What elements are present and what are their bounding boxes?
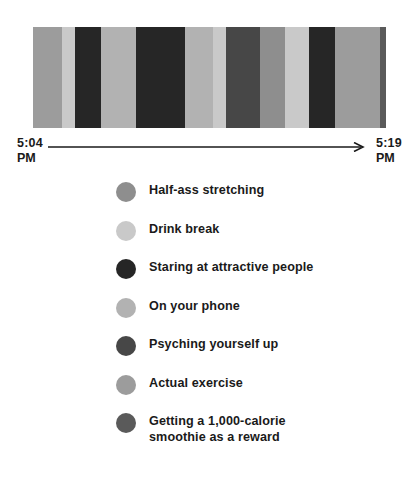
timeline-bar-chart xyxy=(33,27,386,128)
legend-color-swatch-icon xyxy=(116,298,136,318)
timeline-segment xyxy=(62,27,74,128)
chart-legend: Half-ass stretchingDrink breakStaring at… xyxy=(116,181,406,462)
legend-item[interactable]: Actual exercise xyxy=(116,374,406,396)
legend-item[interactable]: On your phone xyxy=(116,297,406,319)
legend-item-label: Drink break xyxy=(149,220,219,238)
legend-item-label: Half-ass stretching xyxy=(149,181,264,199)
axis-end-time-label: 5:19 xyxy=(376,136,402,150)
timeline-segment xyxy=(101,27,137,128)
timeline-segment xyxy=(33,27,62,128)
legend-color-swatch-icon xyxy=(116,336,136,356)
legend-item[interactable]: Psyching yourself up xyxy=(116,335,406,357)
legend-item[interactable]: Half-ass stretching xyxy=(116,181,406,203)
timeline-segment xyxy=(335,27,380,128)
timeline-segment xyxy=(136,27,184,128)
timeline-segment xyxy=(285,27,309,128)
legend-color-swatch-icon xyxy=(116,413,136,433)
axis-start-time-label: 5:04 xyxy=(17,136,43,150)
legend-item[interactable]: Drink break xyxy=(116,220,406,242)
timeline-segment xyxy=(213,27,226,128)
legend-item-label: Psyching yourself up xyxy=(149,335,278,353)
legend-color-swatch-icon xyxy=(116,259,136,279)
legend-item[interactable]: Staring at attractive people xyxy=(116,258,406,280)
right-arrow-icon xyxy=(48,142,370,152)
timeline-segment xyxy=(185,27,213,128)
timeline-segment xyxy=(226,27,260,128)
timeline-segment xyxy=(75,27,101,128)
legend-item[interactable]: Getting a 1,000-caloriesmoothie as a rew… xyxy=(116,412,406,445)
time-axis: 5:04 PM 5:19 PM xyxy=(0,136,419,176)
legend-color-swatch-icon xyxy=(116,221,136,241)
legend-item-label: Staring at attractive people xyxy=(149,258,313,276)
legend-color-swatch-icon xyxy=(116,375,136,395)
legend-item-label: Actual exercise xyxy=(149,374,243,392)
axis-end-meridiem-label: PM xyxy=(376,151,395,165)
timeline-segment xyxy=(309,27,335,128)
timeline-segment xyxy=(260,27,286,128)
timeline-segment xyxy=(380,27,386,128)
axis-start-meridiem-label: PM xyxy=(17,151,36,165)
legend-item-label: On your phone xyxy=(149,297,240,315)
legend-color-swatch-icon xyxy=(116,182,136,202)
legend-item-label: Getting a 1,000-caloriesmoothie as a rew… xyxy=(149,412,286,445)
